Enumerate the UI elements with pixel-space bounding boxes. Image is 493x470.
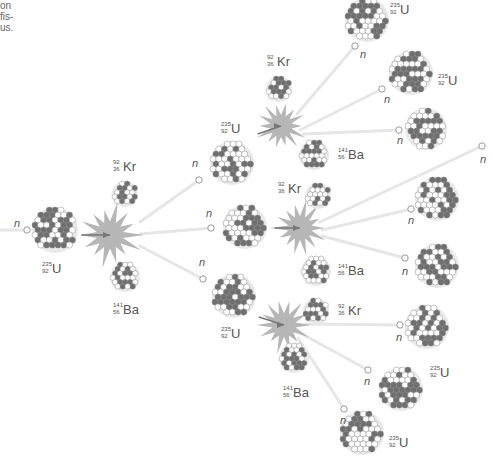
neutron-label: n xyxy=(384,93,390,105)
atomic-number: 92 xyxy=(438,80,445,86)
mass-number: 235 xyxy=(430,365,440,371)
barium-label: 14156Ba xyxy=(113,303,139,317)
mass-number: 92 xyxy=(113,159,120,165)
barium-label: 14156Ba xyxy=(338,264,364,278)
neutron-icon xyxy=(379,86,385,92)
neutron-label: n xyxy=(199,256,205,268)
uranium-nucleus xyxy=(32,207,78,253)
uranium-nucleus xyxy=(405,305,449,349)
element-symbol: U xyxy=(231,121,240,136)
uranium-label: 23592U xyxy=(430,366,449,380)
mass-number: 235 xyxy=(221,121,231,127)
barium-nucleus xyxy=(301,256,331,286)
element-symbol: Ba xyxy=(348,263,364,278)
neutron-trail xyxy=(297,46,355,114)
element-symbol: Ba xyxy=(123,302,139,317)
uranium-label: 23592U xyxy=(221,327,240,341)
neutron-label: n xyxy=(480,153,486,165)
element-symbol: U xyxy=(440,365,449,380)
neutron-label: n xyxy=(364,375,370,387)
krypton-nucleus xyxy=(112,181,138,207)
atomic-number: 36 xyxy=(113,166,120,172)
neutron-icon xyxy=(196,177,202,183)
atomic-number: 92 xyxy=(221,333,228,339)
neutron-icon xyxy=(208,225,214,231)
neutron-trail xyxy=(140,228,211,234)
mass-number: 92 xyxy=(267,54,274,60)
atomic-number: 92 xyxy=(42,268,49,274)
uranium-nucleus xyxy=(389,51,433,95)
element-symbol: Kr xyxy=(348,303,361,318)
uranium-label: 23592U xyxy=(42,262,61,276)
neutron-trail xyxy=(322,236,405,258)
neutron-icon xyxy=(402,255,408,261)
neutron-trail xyxy=(306,324,400,325)
barium-nucleus xyxy=(279,343,309,373)
uranium-nucleus xyxy=(212,274,256,318)
mass-number: 235 xyxy=(221,326,231,332)
mass-number: 141 xyxy=(283,385,293,391)
fission-burst-icon xyxy=(80,201,144,268)
krypton-nucleus xyxy=(303,298,329,324)
neutron-label: n xyxy=(397,134,403,146)
diagram-canvas xyxy=(0,0,493,470)
uranium-label: 23592U xyxy=(390,3,409,17)
krypton-label: 9236Kr xyxy=(278,182,301,196)
mass-number: 92 xyxy=(278,181,285,187)
barium-nucleus xyxy=(110,262,140,292)
mass-number: 235 xyxy=(438,73,448,79)
neutron-icon xyxy=(397,322,403,328)
element-symbol: Kr xyxy=(277,54,290,69)
element-symbol: U xyxy=(400,2,409,17)
atomic-number: 92 xyxy=(389,442,396,448)
mass-number: 141 xyxy=(113,302,123,308)
krypton-nucleus xyxy=(305,183,331,209)
neutron-icon xyxy=(479,143,485,149)
uranium-nucleus xyxy=(340,411,384,455)
krypton-nucleus xyxy=(266,76,292,102)
atomic-number: 92 xyxy=(430,372,437,378)
atomic-number: 36 xyxy=(267,61,274,67)
element-symbol: U xyxy=(231,326,240,341)
element-symbol: U xyxy=(399,435,408,450)
atomic-number: 92 xyxy=(390,9,397,15)
neutron-icon xyxy=(200,276,206,282)
neutron-trail xyxy=(302,334,368,370)
barium-label: 14156Ba xyxy=(338,148,364,162)
uranium-label: 23592U xyxy=(221,122,240,136)
mass-number: 141 xyxy=(338,263,348,269)
mass-number: 235 xyxy=(389,435,399,441)
barium-nucleus xyxy=(299,140,329,170)
atomic-number: 92 xyxy=(221,128,228,134)
fission-burst-icon xyxy=(257,103,305,147)
mass-number: 235 xyxy=(42,261,52,267)
element-symbol: U xyxy=(52,261,61,276)
atomic-number: 56 xyxy=(283,392,290,398)
neutron-label: n xyxy=(340,414,346,426)
atomic-number: 56 xyxy=(113,309,120,315)
neutron-label: n xyxy=(402,265,408,277)
atomic-number: 36 xyxy=(278,188,285,194)
uranium-nucleus xyxy=(345,0,389,42)
uranium-label: 23592U xyxy=(389,436,408,450)
atomic-number: 56 xyxy=(338,154,345,160)
neutron-trail xyxy=(322,209,411,230)
neutron-label: n xyxy=(206,207,212,219)
neutron-label: n xyxy=(360,48,366,60)
neutron-label: n xyxy=(396,331,402,343)
neutron-label: n xyxy=(192,157,198,169)
element-symbol: Ba xyxy=(348,147,364,162)
fission-chain-diagram: on fis- us. 23592U9236Kr14156Ba23592U235… xyxy=(0,0,493,470)
uranium-nucleus xyxy=(405,108,447,150)
element-symbol: U xyxy=(448,73,457,88)
mass-number: 141 xyxy=(338,147,348,153)
krypton-label: 9236Kr xyxy=(267,55,290,69)
krypton-label: 9236Kr xyxy=(113,160,136,174)
mass-number: 92 xyxy=(338,303,345,309)
neutron-icon xyxy=(341,406,347,412)
neutron-trail xyxy=(303,130,399,134)
uranium-nucleus xyxy=(415,244,459,288)
krypton-label: 9236Kr xyxy=(338,304,361,318)
element-symbol: Kr xyxy=(123,159,136,174)
neutron-icon xyxy=(352,43,358,49)
